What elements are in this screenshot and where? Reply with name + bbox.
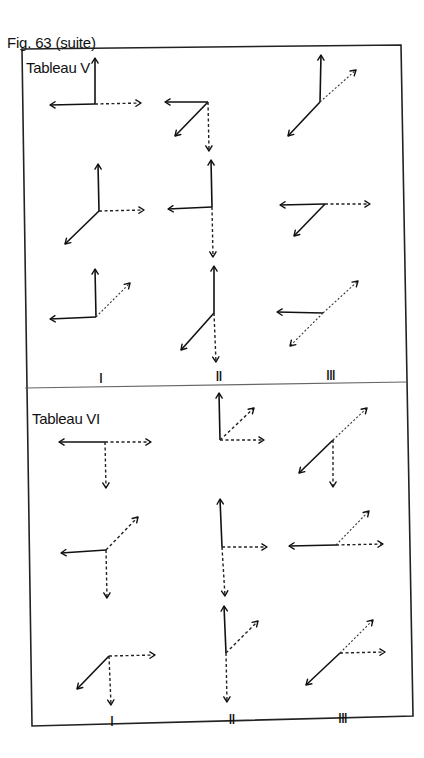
vector-diagram (277, 281, 358, 346)
solid-vector (50, 317, 96, 319)
dotted-vector (320, 70, 356, 102)
dashed-vector (109, 655, 155, 656)
solid-vector (168, 207, 212, 209)
solid-vector (277, 312, 323, 313)
vector-diagram (181, 266, 219, 362)
vector-diagram (77, 652, 155, 705)
solid-vector (77, 656, 109, 689)
figure-canvas (0, 0, 424, 758)
arrowhead-icon (367, 620, 373, 626)
vector-diagram (306, 620, 385, 685)
vector-diagram (216, 393, 264, 443)
dashed-vector (212, 207, 213, 257)
dashed-vector (222, 547, 225, 596)
vector-diagram (61, 517, 138, 598)
vector-diagram (217, 499, 267, 596)
dashed-vector (214, 313, 216, 362)
vector-diagram (288, 55, 356, 136)
arrowhead-icon (290, 340, 296, 346)
vector-diagram (65, 164, 144, 244)
tableau-vi-column-label-ii: II (229, 711, 235, 727)
solid-vector (98, 164, 99, 211)
tableau-v-column-label-ii: II (216, 368, 222, 384)
arrowhead-icon (361, 408, 367, 414)
solid-vector (219, 393, 220, 440)
solid-vector (50, 104, 95, 105)
solid-vector (289, 545, 336, 546)
dashed-vector (99, 210, 144, 211)
tableau-vi-title: Tableau VI (32, 410, 100, 427)
solid-vector (181, 313, 214, 350)
dashed-vector (340, 652, 385, 653)
tableau-v-title: Tableau V (26, 59, 90, 76)
dashed-vector (220, 408, 254, 440)
dashed-vector (226, 621, 258, 653)
dotted-vector (323, 281, 358, 313)
dashed-vector (226, 653, 227, 702)
dashed-vector (106, 517, 138, 550)
solid-vector (294, 204, 325, 236)
solid-vector (224, 606, 226, 653)
solid-vector (288, 102, 320, 136)
dashed-vector (336, 544, 383, 545)
dotted-vector (340, 620, 373, 653)
vector-diagram (289, 511, 383, 549)
dashed-vector (109, 656, 111, 705)
solid-vector (61, 550, 106, 553)
dashed-vector (105, 442, 106, 488)
arrowhead-icon (146, 439, 151, 445)
vector-diagram (299, 408, 367, 487)
dashed-vector (106, 550, 107, 598)
solid-vector (299, 440, 333, 473)
vector-diagram (165, 99, 212, 151)
solid-vector (220, 499, 222, 547)
solid-vector (320, 55, 321, 102)
solid-vector (280, 204, 325, 205)
dotted-vector (96, 283, 130, 317)
tableau-v-column-label-iii: III (326, 367, 335, 383)
arrowhead-icon (103, 483, 109, 488)
dashed-vector (95, 103, 141, 104)
dotted-vector (333, 408, 367, 440)
solid-vector (211, 160, 212, 207)
tableau-v-column-label-i: I (99, 370, 102, 386)
vector-diagram (168, 160, 216, 257)
solid-vector (306, 653, 340, 685)
arrowhead-icon (136, 100, 141, 106)
vector-diagram (221, 606, 258, 702)
dashed-vector (208, 102, 209, 151)
tableau-vi-column-label-i: I (110, 713, 113, 729)
solid-vector (65, 211, 99, 244)
tableau-vi-column-label-iii: III (338, 710, 347, 726)
vector-diagram (280, 201, 370, 236)
dotted-vector (336, 511, 369, 545)
vector-diagram (59, 439, 151, 488)
solid-vector (95, 269, 96, 317)
vector-diagram (50, 269, 130, 322)
solid-vector (175, 102, 208, 136)
dotted-vector (290, 313, 323, 346)
arrowhead-icon (150, 652, 155, 658)
